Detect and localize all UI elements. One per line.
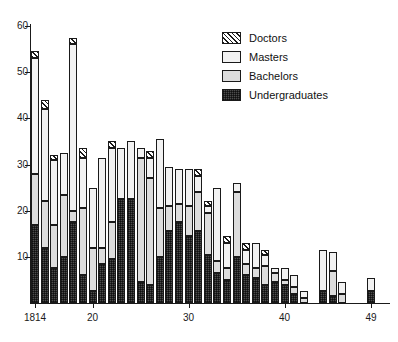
bar-segment-undergraduates-1829: [175, 222, 183, 303]
bar-segment-bachelors-1821: [98, 248, 106, 264]
legend: Doctors Masters Bachelors Undergraduates: [222, 28, 392, 104]
bar-segment-bachelors-1822: [108, 222, 116, 259]
bar-1844: [319, 250, 327, 303]
bar-1828: [165, 167, 173, 303]
bar-segment-bachelors-1818: [69, 211, 77, 223]
bar-1815: [41, 100, 49, 303]
legend-item-doctors: Doctors: [222, 28, 392, 47]
bar-segment-masters-1831: [194, 176, 202, 192]
bar-segment-undergraduates-1820: [89, 291, 97, 303]
bar-segment-bachelors-1814: [31, 174, 39, 225]
bar-segment-bachelors-1828: [165, 206, 173, 231]
bar-segment-doctors-1819: [79, 148, 87, 157]
bar-segment-masters-1837: [252, 243, 260, 268]
legend-label-doctors: Doctors: [249, 32, 287, 44]
bar-segment-bachelors-1842: [300, 298, 308, 303]
bar-segment-undergraduates-1845: [329, 296, 337, 303]
bar-segment-doctors-1816: [50, 155, 58, 160]
bar-segment-undergraduates-1830: [185, 236, 193, 303]
legend-label-bachelors: Bachelors: [249, 70, 298, 82]
bar-segment-masters-1822: [108, 148, 116, 222]
bar-segment-masters-1816: [50, 160, 58, 225]
bar-segment-undergraduates-1814: [31, 225, 39, 303]
bar-segment-masters-1842: [300, 291, 308, 298]
bar-segment-undergraduates-1841: [290, 294, 298, 303]
bar-segment-undergraduates-1838: [261, 285, 269, 303]
bar-1839: [271, 268, 279, 303]
bar-segment-bachelors-1827: [156, 208, 164, 256]
bar-segment-bachelors-1825: [137, 158, 145, 283]
bar-segment-undergraduates-1817: [60, 257, 68, 303]
bar-segment-masters-1821: [98, 158, 106, 248]
undergraduates-swatch-icon: [222, 89, 241, 101]
bar-1838: [261, 250, 269, 303]
bar-segment-bachelors-1840: [281, 280, 289, 285]
bar-segment-masters-1840: [281, 268, 289, 280]
bar-1822: [108, 141, 116, 303]
bar-segment-bachelors-1838: [261, 266, 269, 284]
bar-segment-bachelors-1819: [79, 208, 87, 275]
bar-1830: [185, 169, 193, 303]
bar-segment-masters-1841: [290, 275, 298, 287]
bar-1816: [50, 155, 58, 303]
bar-segment-undergraduates-1835: [233, 257, 241, 303]
bar-1823: [117, 148, 125, 303]
bar-1825: [137, 148, 145, 303]
doctors-swatch-icon: [222, 32, 241, 44]
bar-segment-masters-1826: [146, 158, 154, 179]
bar-segment-undergraduates-1816: [50, 268, 58, 303]
bar-segment-undergraduates-1839: [271, 282, 279, 303]
bar-segment-undergraduates-1834: [223, 280, 231, 303]
stacked-bar-chart: 102030405060 181420304049 Doctors Master…: [0, 0, 398, 342]
bar-segment-masters-1815: [41, 109, 49, 201]
bar-1831: [194, 169, 202, 303]
bar-1837: [252, 243, 260, 303]
bar-segment-masters-1846: [338, 282, 346, 294]
bar-segment-undergraduates-1822: [108, 259, 116, 303]
bar-segment-masters-1835: [233, 183, 241, 192]
bar-segment-masters-1834: [223, 243, 231, 268]
bar-segment-doctors-1838: [261, 250, 269, 255]
bar-segment-doctors-1814: [31, 51, 39, 58]
bar-1829: [175, 169, 183, 303]
bar-1835: [233, 183, 241, 303]
bar-segment-undergraduates-1828: [165, 231, 173, 303]
bar-segment-masters-1827: [156, 139, 164, 208]
bar-segment-bachelors-1820: [89, 248, 97, 292]
bar-1841: [290, 275, 298, 303]
bar-1849: [367, 278, 375, 303]
bar-segment-masters-1829: [175, 169, 183, 204]
bar-segment-undergraduates-1825: [137, 282, 145, 303]
bar-segment-doctors-1836: [242, 243, 250, 250]
bar-segment-undergraduates-1827: [156, 257, 164, 303]
bar-1827: [156, 139, 164, 303]
bar-segment-undergraduates-1836: [242, 275, 250, 303]
legend-item-bachelors: Bachelors: [222, 66, 392, 85]
bar-segment-undergraduates-1815: [41, 248, 49, 303]
bar-segment-masters-1836: [242, 250, 250, 264]
bar-segment-undergraduates-1826: [146, 285, 154, 303]
bar-segment-masters-1839: [271, 268, 279, 273]
bar-1814: [31, 51, 39, 303]
bar-segment-doctors-1834: [223, 236, 231, 243]
bar-segment-doctors-1831: [194, 169, 202, 176]
bar-segment-bachelors-1834: [223, 268, 231, 280]
bar-segment-doctors-1818: [69, 38, 77, 45]
bar-segment-masters-1849: [367, 278, 375, 292]
bar-1833: [213, 188, 221, 303]
legend-item-undergraduates: Undergraduates: [222, 85, 392, 104]
bar-segment-masters-1845: [329, 252, 337, 270]
bar-1842: [300, 291, 308, 303]
bar-segment-bachelors-1841: [290, 287, 298, 294]
bar-segment-masters-1828: [165, 167, 173, 206]
bachelors-swatch-icon: [222, 70, 241, 82]
bar-segment-bachelors-1829: [175, 204, 183, 222]
bar-1836: [242, 243, 250, 303]
bar-segment-bachelors-1833: [213, 261, 221, 273]
bar-segment-undergraduates-1832: [204, 255, 212, 303]
bar-segment-bachelors-1839: [271, 273, 279, 282]
bar-segment-bachelors-1826: [146, 178, 154, 284]
bar-segment-undergraduates-1824: [127, 199, 135, 303]
bar-1820: [89, 188, 97, 303]
bar-1826: [146, 151, 154, 303]
